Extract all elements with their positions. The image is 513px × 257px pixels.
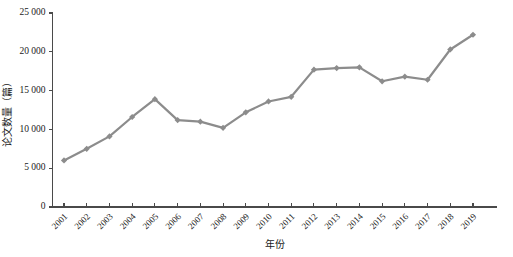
data-point-marker: 2007: 11000: [197, 119, 203, 125]
x-tick-label: 2010: [254, 211, 274, 231]
y-tick-label: 0: [41, 201, 46, 211]
x-tick-label: 2015: [368, 211, 388, 231]
x-tick-label: 2019: [459, 211, 479, 231]
x-tick-label: 2001: [50, 211, 70, 231]
x-tick-label: 2017: [413, 211, 433, 231]
x-tick-label: 2018: [436, 211, 456, 231]
x-axis: 2001200220032004200520062007200820092010…: [50, 203, 497, 231]
x-tick-label: 2011: [277, 211, 297, 231]
y-tick-label: 15 000: [19, 85, 45, 95]
x-tick-label: 2012: [300, 211, 320, 231]
x-tick-label: 2004: [118, 211, 138, 231]
y-tick-label: 25 000: [19, 7, 45, 17]
x-tick-label: 2014: [345, 211, 365, 231]
line-chart: 05 00010 00015 00020 00025 000 200120022…: [0, 0, 513, 257]
x-tick-label: 2007: [186, 211, 206, 231]
x-tick-label: 2006: [163, 211, 183, 231]
data-point-marker: 2016: 16800: [402, 74, 408, 80]
x-tick-label: 2005: [141, 211, 161, 231]
y-axis-title: 论文数量（篇）: [1, 77, 13, 147]
x-tick-label: 2013: [322, 211, 342, 231]
series-line-论文数量: [64, 35, 473, 161]
y-tick-label: 5 000: [24, 162, 46, 172]
y-tick-label: 20 000: [19, 46, 45, 56]
x-tick-label: 2002: [72, 211, 92, 231]
x-tick-label: 2003: [95, 211, 115, 231]
y-tick-label: 10 000: [19, 124, 45, 134]
data-point-marker: 2013: 17900: [334, 65, 340, 71]
x-axis-title: 年份: [265, 238, 285, 250]
x-tick-label: 2009: [231, 211, 251, 231]
y-axis: 05 00010 00015 00020 00025 000: [19, 7, 52, 211]
chart-container: 05 00010 00015 00020 00025 000 200120022…: [0, 0, 513, 257]
x-tick-label: 2008: [209, 211, 229, 231]
data-series-group: 2001: 60002002: 75002003: 91002004: 1160…: [61, 32, 476, 164]
x-tick-label: 2016: [390, 211, 410, 231]
